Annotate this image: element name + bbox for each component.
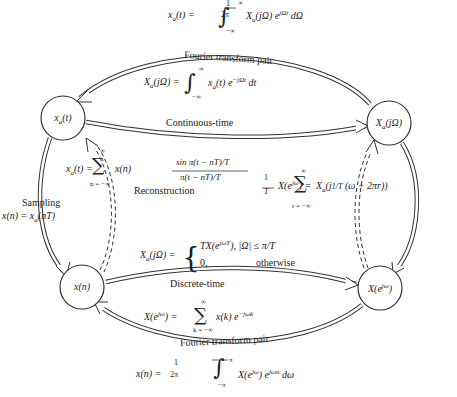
eq-aliasing-frac-den: T [264,188,268,196]
eq-dtft-upper: ∞ [201,299,206,306]
label-discrete-time: Discrete-time [170,279,224,289]
eq-bandlimited-case1: TX(ejωT), |Ω| ≤ π/T [200,240,275,251]
eq-inverse-dtft-den: 2π [170,371,178,379]
eq-bandlimited-case2-value: 0, [200,258,208,268]
eq-aliasing-rhs: Xa(j1/T (ω + 2πr)) [316,181,388,194]
eq-inverse-ctft-upper: ∞ [238,0,243,7]
eq-aliasing-lower: r = −∞ [292,203,311,210]
eq-inverse-dtft-lower: −π [218,382,225,389]
eq-inverse-dtft-upper: π [229,357,233,364]
eq-inverse-dtft-num: 1 [174,359,178,367]
integral-symbol-bottom: ∫ [213,355,225,380]
eq-inverse-dtft-lhs: x(n) = [136,369,161,379]
node-label-xa-t: xa(t) [41,112,85,126]
label-reconstruction: Reconstruction [134,186,195,196]
arrow-bandlimited [355,140,378,268]
label-sampling: Sampling [22,198,60,208]
eq-ctft-lower: −∞ [192,94,201,101]
sum-symbol-reconstruction: ∑ [92,154,105,175]
sum-symbol-dtft: ∑ [194,304,207,325]
integral-symbol-ctft: ∫ [184,70,196,95]
eq-ctft-rhs: xa(t) e−jΩt dt [208,77,256,91]
eq-inverse-ctft-den: 2π [221,11,229,19]
eq-inverse-ctft-num: 1 [226,0,230,8]
eq-ctft-upper: ∞ [199,66,204,73]
node-label-x-n: x(n) [60,281,104,292]
eq-aliasing-lhs: X(ejω) = [278,180,311,191]
brace-symbol: { [182,241,200,274]
eq-inverse-dtft-rhs: X(ejω) ejωn dω [238,369,294,380]
eq-ctft-lhs: Xa(jΩ) = [144,77,180,90]
eq-bandlimited-case2-otherwise: otherwise [256,258,295,268]
eq-aliasing-frac-num: 1 [264,174,268,182]
eq-inverse-ctft-lower: −∞ [226,28,235,35]
eq-inverse-ctft-lhs: xa(t) = [168,10,195,23]
eq-dtft-rhs: x(k) e−jωk [216,311,253,322]
eq-reconstruction-lhs: xa(t) = [66,164,93,177]
arrow-discrete-time [106,268,358,290]
node-label-X-ejomega: X(ejω) [358,282,402,294]
eq-inverse-ctft-rhs: Xa(jΩ) ejΩt dΩ [246,10,303,24]
node-label-Xa-jOmega: Xa(jΩ) [367,117,411,131]
eq-dtft-lhs: X(ejω) = [144,311,177,322]
arrow-aliasing [392,143,417,274]
eq-dtft-lower: k = −∞ [193,327,213,334]
eq-aliasing-upper: ∞ [301,168,306,175]
eq-reconstruction-xn: x(n) [115,164,131,174]
eq-reconstruction-upper: ∞ [100,148,105,155]
eq-reconstruction-denominator: π(t − nT)/T [180,173,221,182]
eq-bandlimited-lhs: Xa(jΩ) = [140,250,176,263]
label-sampling-eq: x(n) = xa(nT) [2,211,55,224]
label-continuous-time: Continuous-time [166,118,233,128]
eq-reconstruction-numerator: sin π(t − nT)/T [176,158,229,167]
eq-reconstruction-lower: n = −∞ [90,181,110,188]
